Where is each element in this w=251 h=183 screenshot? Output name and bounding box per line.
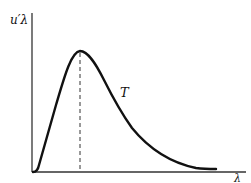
planck-curve-figure: u′λ T λ: [0, 0, 251, 183]
y-axis-label: u′λ: [10, 13, 28, 27]
x-axis-label: λ: [234, 172, 241, 183]
spectral-curve: [33, 51, 216, 172]
curve-label: T: [120, 85, 129, 100]
